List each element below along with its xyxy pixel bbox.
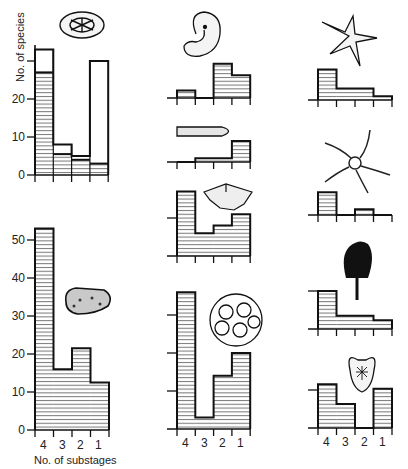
species-substage-histograms: No. of species No. of substages 4 3 2 1 … (0, 0, 408, 469)
bar-hatched (232, 141, 250, 162)
svg-text:1: 1 (237, 436, 244, 450)
svg-text:4: 4 (182, 436, 189, 450)
bar-hatched (355, 316, 374, 329)
bar-hatched (337, 89, 356, 100)
bar-hatched (232, 214, 250, 256)
y-tick-label: 10 (12, 130, 26, 144)
bryozoan-icon (210, 294, 262, 346)
y-tick-label: 50 (12, 233, 26, 247)
sponge-icon (66, 288, 111, 314)
bar-hatched (318, 192, 337, 215)
svg-text:4: 4 (323, 435, 330, 449)
chart-right-1 (308, 70, 392, 107)
bar-hatched (374, 320, 393, 329)
chart-mid-2 (167, 141, 250, 169)
chart-panels: 0102001020304050 (12, 45, 392, 437)
y-tick-label: 20 (12, 347, 26, 361)
bar-hatched (214, 376, 232, 429)
brittle-star-icon (325, 130, 390, 193)
bar-hatched (214, 64, 232, 98)
y-tick-label: 0 (18, 168, 25, 182)
svg-text:3: 3 (59, 438, 66, 452)
bar-hatched (90, 164, 108, 175)
bar-hatched (337, 404, 356, 428)
svg-text:3: 3 (342, 435, 349, 449)
chart-right-2 (308, 192, 392, 222)
x-tick-labels-right: 4 3 2 1 (323, 435, 386, 449)
crinoid-icon (344, 241, 372, 300)
svg-text:2: 2 (219, 436, 226, 450)
diatom-icon (60, 12, 104, 38)
bar-hatched (72, 348, 91, 430)
bar-hatched (35, 229, 54, 430)
bar-hatched (318, 291, 337, 329)
bar-hatched (54, 369, 73, 430)
bar-hatched (337, 316, 356, 329)
bar-hatched (177, 90, 195, 98)
chart-right-4 (308, 384, 392, 435)
chart-left-top: 01020 (12, 45, 109, 182)
x-tick-labels-left: 4 3 2 1 (40, 438, 102, 452)
bar-hatched (177, 292, 195, 429)
chart-left-bottom: 01020304050 (12, 228, 109, 437)
y-tick-label: 0 (18, 423, 25, 437)
svg-text:1: 1 (379, 435, 386, 449)
bar-hatched (232, 75, 250, 98)
chart-mid-1 (167, 64, 250, 105)
svg-text:4: 4 (40, 438, 47, 452)
y-axis-title: No. of species (14, 12, 26, 82)
chart-right-3 (308, 291, 392, 336)
y-tick-label: 40 (12, 271, 26, 285)
svg-text:1: 1 (95, 438, 102, 452)
y-tick-label: 10 (12, 385, 26, 399)
bar-hatched (53, 154, 71, 175)
bar-hatched (374, 389, 393, 428)
y-tick-label: 20 (12, 92, 26, 106)
x-tick-labels-middle: 4 3 2 1 (182, 436, 244, 450)
bar-hatched (195, 233, 213, 256)
bar-hatched (177, 191, 195, 256)
svg-text:2: 2 (77, 438, 84, 452)
x-axis-title: No. of substages (34, 454, 117, 466)
bar-hatched (91, 383, 110, 431)
bar-hatched (318, 70, 337, 100)
bar-hatched (72, 160, 90, 175)
bar-hatched (214, 226, 232, 256)
bar-hatched (318, 384, 337, 428)
coral-icon (204, 184, 252, 210)
bar-hatched (232, 353, 250, 429)
belemnite-icon (177, 127, 229, 136)
echinoid-icon (349, 358, 375, 392)
y-tick-label: 30 (12, 309, 26, 323)
svg-text:3: 3 (201, 436, 208, 450)
gastropod-icon (184, 12, 220, 56)
svg-text:2: 2 (361, 435, 368, 449)
bar-hatched (195, 418, 213, 429)
starfish-icon (322, 16, 377, 66)
bar-hatched (35, 72, 53, 175)
bar-hatched (355, 89, 374, 100)
